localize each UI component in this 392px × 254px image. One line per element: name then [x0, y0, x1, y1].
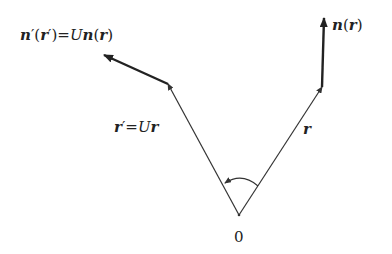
label-origin: 0: [234, 230, 244, 245]
label-left-normal: n′(r′)=Un(r): [20, 28, 113, 43]
sym-eq: =: [57, 26, 70, 44]
normal-n: [322, 18, 324, 87]
sym-paren: ): [107, 26, 113, 44]
normal-n-prime: [104, 55, 168, 84]
sym-eq: =: [125, 118, 138, 136]
sym-r: r: [303, 120, 311, 138]
label-right-normal: n(r): [332, 18, 363, 33]
label-left-vector: r′=Ur: [114, 120, 158, 135]
sym-r: r: [151, 118, 159, 136]
sym-r: r: [114, 118, 122, 136]
sym-n: n: [20, 26, 31, 44]
sym-r: r: [40, 26, 48, 44]
vector-r-prime: [168, 84, 239, 215]
origin-point: [238, 214, 241, 217]
sym-r: r: [349, 16, 357, 34]
sym-n: n: [83, 26, 94, 44]
sym-U: U: [138, 118, 151, 136]
sym-paren: ): [357, 16, 363, 34]
label-right-vector: r: [303, 122, 311, 137]
sym-n: n: [332, 16, 343, 34]
rotation-arc: [225, 178, 258, 186]
rotation-diagram: n′(r′)=Un(r) n(r) r′=Ur r 0: [0, 0, 392, 254]
sym-U: U: [70, 26, 83, 44]
vector-r: [239, 87, 322, 215]
